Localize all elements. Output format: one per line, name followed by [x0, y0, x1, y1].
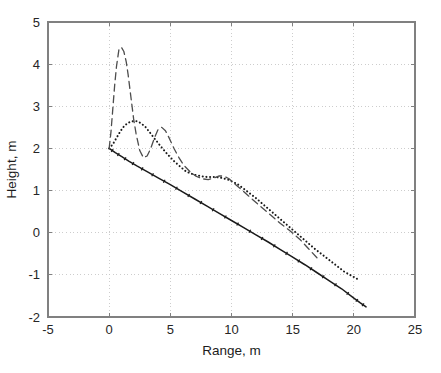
x-tick-label: -5 — [42, 322, 54, 337]
x-axis-label: Range, m — [202, 343, 261, 358]
chart-figure: -50510152025-2-1012345 Range, m Height, … — [0, 0, 441, 373]
y-tick-label: -2 — [28, 310, 40, 325]
x-tick-label: 0 — [106, 322, 113, 337]
y-tick-label: 5 — [33, 15, 40, 30]
x-tick-label: 15 — [285, 322, 299, 337]
y-tick-label: 3 — [33, 99, 40, 114]
y-tick-label: 2 — [33, 141, 40, 156]
x-tick-label: 5 — [167, 322, 174, 337]
x-tick-label: 25 — [408, 322, 422, 337]
y-tick-label: 1 — [33, 183, 40, 198]
x-tick-label: 20 — [347, 322, 361, 337]
y-tick-label: 0 — [33, 225, 40, 240]
x-tick-label: 10 — [224, 322, 238, 337]
y-axis-label: Height, m — [4, 141, 19, 199]
chart-canvas: -50510152025-2-1012345 Range, m Height, … — [0, 0, 441, 373]
y-tick-label: 4 — [33, 57, 40, 72]
y-tick-label: -1 — [28, 267, 40, 282]
